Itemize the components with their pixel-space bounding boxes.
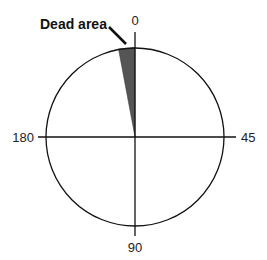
- dead-area-leader-line: [109, 27, 126, 44]
- angle-label-top: 0: [131, 13, 138, 28]
- angle-label-left: 180: [12, 130, 34, 145]
- angle-label-right: 45: [241, 130, 255, 145]
- angle-label-bottom: 90: [128, 240, 142, 255]
- dead-area-wedge: [119, 48, 136, 138]
- dead-area-label: Dead area: [40, 16, 107, 32]
- dial-diagram: Dead area 0 45 90 180: [0, 0, 267, 260]
